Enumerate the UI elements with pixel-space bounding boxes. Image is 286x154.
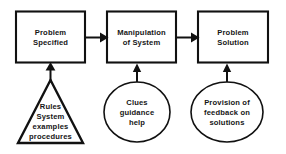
arrow-ellipse2-to-box3 bbox=[223, 64, 231, 83]
node-provision-of-feedback-on-solutions: Provision of feedback on solutions bbox=[191, 82, 263, 142]
node-problem-specified: Problem Specified bbox=[16, 12, 85, 63]
rules-triangle-line3: examples bbox=[33, 122, 69, 131]
rules-triangle-line1: Rules bbox=[40, 102, 61, 111]
problem-specified-line2: Specified bbox=[33, 38, 68, 47]
rules-triangle-line4: procedures bbox=[29, 132, 72, 141]
node-manipulation-of-system: Manipulation of System bbox=[107, 12, 176, 63]
feedback-ellipse-line2: feedback on bbox=[204, 108, 250, 117]
problem-solution-line1: Problem bbox=[217, 28, 249, 37]
node-clues-guidance-help: Clues guidance help bbox=[104, 82, 170, 142]
arrow-box1-to-box2 bbox=[86, 33, 109, 43]
problem-solution-line2: Solution bbox=[217, 38, 249, 47]
feedback-ellipse-line3: solutions bbox=[209, 118, 244, 127]
arrow-ellipse1-to-box2 bbox=[133, 64, 141, 83]
arrow-triangle-to-box1 bbox=[46, 62, 56, 82]
feedback-ellipse-line1: Provision of bbox=[204, 98, 250, 107]
arrow-box2-to-box3 bbox=[177, 33, 200, 43]
clues-ellipse-line3: help bbox=[129, 118, 145, 127]
manipulation-of-system-line2: of System bbox=[123, 38, 161, 47]
process-flow-diagram: Problem Specified Manipulation of System… bbox=[0, 0, 286, 154]
node-rules-system-examples-procedures: Rules System examples procedures bbox=[18, 80, 83, 143]
rules-triangle-line2: System bbox=[37, 112, 65, 121]
manipulation-of-system-line1: Manipulation bbox=[117, 28, 166, 37]
problem-specified-line1: Problem bbox=[35, 28, 67, 37]
clues-ellipse-line2: guidance bbox=[120, 108, 155, 117]
diagram-canvas: Problem Specified Manipulation of System… bbox=[0, 0, 286, 154]
node-problem-solution: Problem Solution bbox=[198, 12, 268, 63]
clues-ellipse-line1: Clues bbox=[126, 98, 147, 107]
